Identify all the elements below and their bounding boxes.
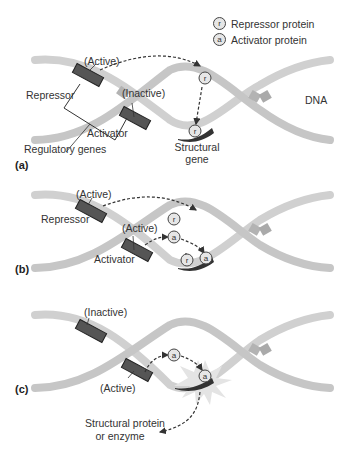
panel-b-label: (b) xyxy=(15,264,29,275)
legend-label: Repressor protein xyxy=(231,18,314,30)
svg-text:a: a xyxy=(203,372,208,381)
activator-state-label: (Inactive) xyxy=(122,88,165,99)
repressor-state-label: (Active) xyxy=(76,189,112,200)
repressor-state-label: (Active) xyxy=(84,56,120,67)
dna-label: DNA xyxy=(305,95,327,106)
svg-text:r: r xyxy=(173,215,176,224)
svg-text:r: r xyxy=(186,256,189,265)
repressor-label: Repressor xyxy=(41,214,89,225)
legend-item-repressor: r Repressor protein xyxy=(213,17,314,30)
activator-label: Activator xyxy=(94,254,135,265)
repressor-protein-icon: r xyxy=(213,17,226,30)
gene-regulation-diagram: r r r a r a xyxy=(0,0,343,455)
diagram-graphics: r r r a r a xyxy=(0,0,343,455)
svg-text:r: r xyxy=(194,127,197,136)
product-label-line2: or enzyme xyxy=(85,431,155,442)
regulatory-genes-label: Regulatory genes xyxy=(24,144,106,155)
panel-b-dna-helix: r a r a xyxy=(35,195,330,271)
svg-text:a: a xyxy=(172,233,177,242)
activator-state-label: (Active) xyxy=(122,223,158,234)
panel-c-label: (c) xyxy=(15,384,28,395)
panel-a-dna-helix: r r xyxy=(35,56,330,152)
product-label-line1: Structural protein xyxy=(85,418,163,429)
repressor-state-label: (Inactive) xyxy=(84,307,127,318)
panel-a-label: (a) xyxy=(15,160,28,171)
svg-text:r: r xyxy=(204,74,207,83)
structural-gene-label-line1: Structural xyxy=(173,142,221,153)
structural-gene-label-line2: gene xyxy=(173,154,221,165)
repressor-label: Repressor xyxy=(26,90,74,101)
legend-item-activator: a Activator protein xyxy=(213,33,307,46)
svg-text:a: a xyxy=(204,254,209,263)
svg-text:a: a xyxy=(172,351,177,360)
legend-label: Activator protein xyxy=(231,34,307,46)
activator-protein-icon: a xyxy=(213,33,226,46)
activator-label: Activator xyxy=(87,128,128,139)
activator-state-label: (Active) xyxy=(100,383,136,394)
panel-c-dna-helix: a a xyxy=(35,315,330,432)
